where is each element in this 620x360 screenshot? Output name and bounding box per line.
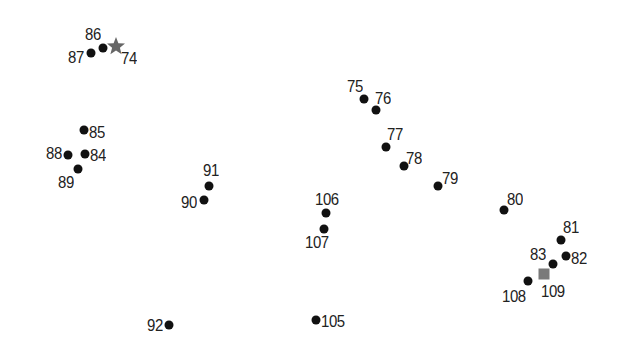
dot-number-label: 80 bbox=[507, 191, 523, 208]
dot-number-label: 75 bbox=[347, 78, 363, 95]
dot-number-label: 89 bbox=[58, 174, 74, 191]
dot-number-label: 78 bbox=[406, 150, 422, 167]
dot-number-label: 108 bbox=[502, 288, 526, 305]
dot-puzzle-canvas: 7576777879808182838485868788899091921051… bbox=[0, 0, 620, 360]
puzzle-dot bbox=[322, 209, 331, 218]
puzzle-dot bbox=[205, 182, 214, 191]
dot-number-label: 76 bbox=[375, 90, 391, 107]
puzzle-dot bbox=[165, 321, 174, 330]
dot-number-label: 82 bbox=[571, 250, 587, 267]
dot-number-label: 88 bbox=[46, 145, 62, 162]
puzzle-dot bbox=[562, 252, 571, 261]
puzzle-dot bbox=[200, 196, 209, 205]
dot-number-label: 79 bbox=[442, 170, 458, 187]
dot-number-label: 85 bbox=[89, 124, 105, 141]
puzzle-dot bbox=[524, 277, 533, 286]
puzzle-dot bbox=[549, 260, 558, 269]
dot-number-label: 84 bbox=[90, 147, 106, 164]
dot-number-label: 107 bbox=[305, 234, 329, 251]
square-end-icon bbox=[539, 269, 550, 280]
dot-number-label: 86 bbox=[85, 26, 101, 43]
puzzle-dot bbox=[87, 49, 96, 58]
dot-number-label: 87 bbox=[68, 49, 84, 66]
dot-number-label: 90 bbox=[181, 194, 197, 211]
start-number-label: 74 bbox=[121, 50, 137, 67]
puzzle-dot bbox=[312, 316, 321, 325]
end-number-label: 109 bbox=[541, 283, 565, 300]
puzzle-dot bbox=[74, 165, 83, 174]
puzzle-dot bbox=[64, 151, 73, 160]
dot-number-label: 81 bbox=[563, 219, 579, 236]
dot-number-label: 106 bbox=[315, 191, 339, 208]
dot-number-label: 105 bbox=[321, 313, 345, 330]
dot-number-label: 83 bbox=[530, 246, 546, 263]
dot-number-label: 77 bbox=[387, 126, 403, 143]
puzzle-dot bbox=[81, 150, 90, 159]
dot-number-label: 92 bbox=[147, 317, 163, 334]
puzzle-dot bbox=[80, 126, 89, 135]
dot-number-label: 91 bbox=[203, 162, 219, 179]
